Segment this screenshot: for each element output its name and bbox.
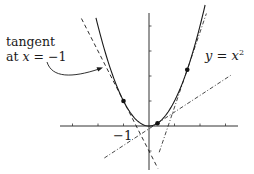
chart-figure	[0, 0, 254, 174]
curve-label: y = x2	[205, 48, 244, 63]
tangent-annotation: tangent at x = −1	[6, 34, 66, 64]
tangent-point	[185, 67, 190, 72]
axes	[60, 13, 238, 170]
annotation-line-1: tangent	[6, 34, 66, 49]
tangent-line-x-one-third	[104, 75, 230, 158]
tangent-line-x-minus-1	[81, 19, 158, 169]
tangent-point	[155, 121, 160, 126]
x-tick-label-minus-1: −1	[113, 128, 132, 143]
tangent-point	[121, 99, 126, 104]
annotation-line-2: at x = −1	[6, 49, 66, 64]
arrowhead-icon	[97, 67, 104, 71]
tangent-points	[121, 67, 189, 125]
tangent-line-x-1.5	[159, 14, 206, 153]
